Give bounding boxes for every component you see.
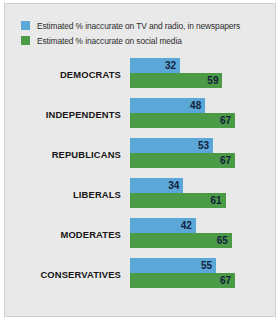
category-label-independents: INDEPENDENTS [5,109,130,120]
legend-swatch-blue [21,21,30,30]
category-label-moderates: MODERATES [5,229,130,240]
bar-pair: 4867 [130,98,275,130]
category-label-conservatives: CONSERVATIVES [5,269,130,280]
bar-liberals-social-media: 61 [130,193,226,208]
bar-republicans-social-media: 67 [130,153,235,168]
bar-group: DEMOCRATS3259 [5,54,275,94]
bar-liberals-tv-radio-newspapers: 34 [130,178,183,193]
bar-value-label: 67 [220,276,235,286]
bar-group: REPUBLICANS5367 [5,134,275,174]
bar-value-label: 55 [201,261,216,271]
bar-group: MODERATES4265 [5,214,275,254]
chart-legend: Estimated % inaccurate on TV and radio, … [5,18,275,48]
bar-value-label: 59 [207,76,222,86]
bar-pair: 3259 [130,58,275,90]
bar-group: LIBERALS3461 [5,174,275,214]
legend-label-social-media: Estimated % inaccurate on social media [37,36,182,46]
bar-value-label: 34 [168,181,183,191]
bar-democrats-tv-radio-newspapers: 32 [130,58,180,73]
legend-item-social-media: Estimated % inaccurate on social media [5,33,275,48]
bar-group: CONSERVATIVES5567 [5,254,275,294]
bar-moderates-social-media: 65 [130,233,232,248]
category-label-democrats: DEMOCRATS [5,69,130,80]
bar-value-label: 67 [220,156,235,166]
bar-pair: 3461 [130,178,275,210]
bar-value-label: 67 [220,116,235,126]
legend-swatch-green [21,36,30,45]
bar-moderates-tv-radio-newspapers: 42 [130,218,196,233]
bar-independents-social-media: 67 [130,113,235,128]
bar-independents-tv-radio-newspapers: 48 [130,98,205,113]
bar-group: INDEPENDENTS4867 [5,94,275,134]
bar-conservatives-tv-radio-newspapers: 55 [130,258,216,273]
bar-value-label: 48 [190,101,205,111]
legend-item-tv-radio-newspapers: Estimated % inaccurate on TV and radio, … [5,18,275,33]
chart-panel: Estimated % inaccurate on TV and radio, … [4,3,276,317]
bar-value-label: 65 [217,236,232,246]
bar-republicans-tv-radio-newspapers: 53 [130,138,213,153]
bar-democrats-social-media: 59 [130,73,222,88]
bar-value-label: 53 [198,141,213,151]
category-label-republicans: REPUBLICANS [5,149,130,160]
chart-plot-area: DEMOCRATS3259INDEPENDENTS4867REPUBLICANS… [5,54,275,312]
bar-value-label: 42 [181,221,196,231]
bar-pair: 5567 [130,258,275,290]
bar-pair: 5367 [130,138,275,170]
bar-conservatives-social-media: 67 [130,273,235,288]
legend-label-tv-radio-newspapers: Estimated % inaccurate on TV and radio, … [37,21,240,31]
bar-value-label: 32 [165,61,180,71]
category-label-liberals: LIBERALS [5,189,130,200]
bar-pair: 4265 [130,218,275,250]
bar-value-label: 61 [210,196,225,206]
